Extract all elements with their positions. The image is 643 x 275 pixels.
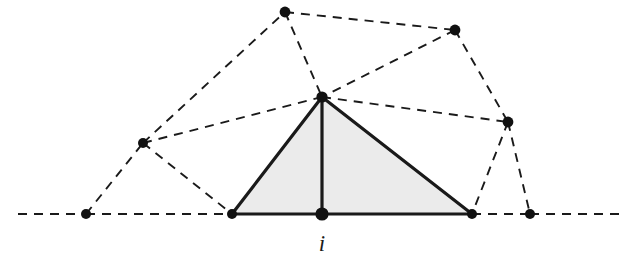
top-left-node <box>280 7 291 18</box>
top-left-to-top-right <box>285 12 455 30</box>
left-mid-to-left-base <box>143 143 232 214</box>
center-node-i <box>315 207 328 220</box>
right-mid-to-far-right-base <box>508 122 530 214</box>
left-middle-node <box>138 138 148 148</box>
node-label-i: i <box>319 232 325 255</box>
top-left-to-apex <box>285 12 322 97</box>
top-right-node <box>450 25 461 36</box>
far-left-base-to-left-mid <box>86 143 143 214</box>
far-right-baseline-node <box>525 209 535 219</box>
apex-node <box>316 91 327 102</box>
left-mid-to-top-left <box>143 12 285 143</box>
mesh-diagram-canvas: i <box>0 0 643 275</box>
far-left-baseline-node <box>81 209 91 219</box>
top-right-to-right-mid <box>455 30 508 122</box>
right-base-node <box>467 209 477 219</box>
right-middle-node <box>503 117 514 128</box>
shaded-region-layer <box>232 97 472 214</box>
left-base-node <box>227 209 237 219</box>
right-mid-to-right-base <box>472 122 508 214</box>
shaded-support-triangle <box>232 97 472 214</box>
top-right-to-apex <box>322 30 455 97</box>
